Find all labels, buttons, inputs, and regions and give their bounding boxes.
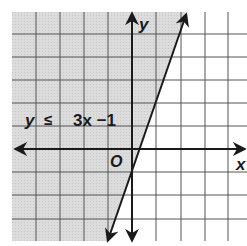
y-axis-label: y — [138, 15, 150, 34]
inequality-graph: y x O y ≤ 3x −1 — [0, 0, 247, 246]
inequality-expression: 3x −1 — [73, 111, 116, 130]
x-axis-label: x — [235, 155, 247, 174]
inequality-variable: y — [24, 111, 36, 130]
inequality-operator: ≤ — [44, 111, 52, 128]
origin-label: O — [110, 153, 123, 170]
